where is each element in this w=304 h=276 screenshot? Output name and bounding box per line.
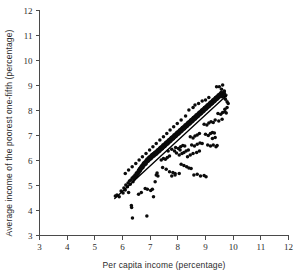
data-point: [151, 188, 155, 192]
x-tick-label: 8: [176, 242, 181, 252]
y-tick-label: 6: [28, 156, 33, 166]
data-point: [223, 89, 227, 93]
data-point: [215, 85, 219, 89]
data-point: [152, 195, 156, 199]
x-tick-label: 12: [284, 242, 293, 252]
data-point: [184, 114, 188, 118]
y-tick-label: 7: [28, 131, 33, 141]
data-point: [199, 174, 203, 178]
data-point: [141, 155, 145, 159]
data-point: [148, 148, 152, 152]
data-point: [156, 174, 160, 178]
scatter-plot-figure: 3456789101112 3456789101112 Per capita i…: [0, 0, 304, 276]
data-point: [151, 145, 155, 149]
x-axis-ticks: 3456789101112: [37, 236, 293, 252]
data-point: [144, 152, 148, 156]
y-tick-label: 8: [28, 106, 33, 116]
data-point: [178, 148, 182, 152]
data-point: [168, 154, 172, 158]
y-tick-label: 10: [24, 56, 34, 66]
data-point: [165, 132, 169, 136]
data-point: [225, 111, 229, 115]
data-point: [187, 148, 191, 152]
x-tick-label: 7: [148, 242, 153, 252]
data-point: [161, 166, 165, 170]
data-point: [183, 144, 187, 148]
data-point: [221, 83, 225, 87]
data-point: [198, 149, 202, 153]
data-point: [168, 170, 172, 174]
data-point: [213, 136, 217, 140]
y-axis-title: Average income of the poorest one-fifth …: [4, 29, 14, 236]
data-point: [175, 151, 179, 155]
data-point: [124, 172, 128, 176]
data-point: [164, 168, 168, 172]
data-point: [168, 128, 172, 132]
data-point: [146, 188, 150, 192]
data-point: [140, 191, 144, 195]
data-point: [225, 106, 229, 110]
data-point: [192, 173, 196, 177]
data-point: [191, 152, 195, 156]
data-point: [131, 216, 135, 220]
data-point: [200, 142, 204, 146]
data-point: [145, 214, 149, 218]
data-point: [215, 144, 219, 148]
data-point: [173, 173, 177, 177]
data-point: [226, 102, 230, 106]
data-point: [177, 172, 181, 176]
y-tick-label: 12: [24, 6, 33, 16]
data-point: [172, 125, 176, 129]
y-tick-label: 3: [28, 231, 33, 241]
data-point: [153, 180, 157, 184]
data-points-layer: [114, 83, 230, 220]
data-point: [170, 174, 174, 178]
data-point: [155, 171, 159, 175]
chart-canvas: 3456789101112 3456789101112 Per capita i…: [0, 0, 304, 276]
data-point: [197, 102, 201, 106]
y-axis-ticks: 3456789101112: [24, 6, 40, 241]
data-point: [162, 135, 166, 139]
data-point: [187, 108, 191, 112]
data-point: [213, 118, 217, 122]
data-point: [176, 122, 180, 126]
data-point: [217, 119, 221, 123]
data-point: [137, 158, 141, 162]
x-tick-label: 6: [120, 242, 125, 252]
data-point: [130, 165, 134, 169]
y-tick-label: 9: [28, 81, 33, 91]
data-point: [158, 138, 162, 142]
data-point: [220, 118, 224, 122]
data-point: [155, 142, 159, 146]
x-tick-label: 5: [93, 242, 98, 252]
data-point: [189, 167, 193, 171]
data-point: [200, 99, 204, 103]
y-tick-label: 4: [28, 206, 33, 216]
data-point: [193, 103, 197, 107]
data-point: [134, 162, 138, 166]
data-point: [127, 191, 131, 195]
data-point: [179, 118, 183, 122]
y-tick-label: 11: [24, 31, 33, 41]
x-tick-label: 10: [229, 242, 239, 252]
plot-axes: [40, 11, 289, 236]
data-point: [127, 168, 131, 172]
x-axis-title: Per capita income (percentage): [102, 260, 225, 270]
x-tick-label: 9: [203, 242, 208, 252]
y-tick-label: 5: [28, 181, 33, 191]
data-point: [195, 173, 199, 177]
x-tick-label: 11: [256, 242, 265, 252]
data-point: [130, 206, 134, 210]
x-tick-label: 4: [65, 242, 70, 252]
x-tick-label: 3: [37, 242, 42, 252]
data-point: [213, 131, 217, 135]
data-point: [204, 98, 208, 102]
data-point: [207, 96, 211, 100]
data-point: [204, 175, 208, 179]
data-point: [198, 132, 202, 136]
